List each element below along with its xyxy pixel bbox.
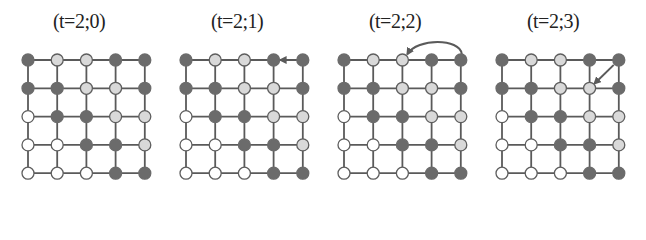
node-empty xyxy=(209,167,221,179)
node-dark xyxy=(80,139,92,151)
node-dark xyxy=(238,111,250,123)
transition-arrow-icon xyxy=(407,42,461,54)
node-dark xyxy=(554,139,566,151)
node-light xyxy=(268,111,280,123)
node-dark xyxy=(396,111,408,123)
node-empty xyxy=(367,167,379,179)
node-dark xyxy=(209,111,221,123)
node-light xyxy=(525,54,537,66)
node-light xyxy=(396,82,408,94)
node-light xyxy=(139,139,151,151)
node-dark xyxy=(496,54,508,66)
node-empty xyxy=(180,139,192,151)
node-dark xyxy=(139,54,151,66)
node-light xyxy=(110,111,122,123)
node-dark xyxy=(297,82,309,94)
node-dark xyxy=(209,82,221,94)
node-empty xyxy=(525,139,537,151)
grid-panel-1 xyxy=(180,54,309,179)
node-empty xyxy=(367,139,379,151)
node-dark xyxy=(238,139,250,151)
node-dark xyxy=(297,167,309,179)
node-empty xyxy=(525,167,537,179)
node-dark xyxy=(51,111,63,123)
node-light xyxy=(139,111,151,123)
node-dark xyxy=(525,111,537,123)
node-light xyxy=(297,111,309,123)
node-dark xyxy=(268,54,280,66)
node-light xyxy=(613,139,625,151)
node-light xyxy=(455,139,467,151)
node-empty xyxy=(338,111,350,123)
node-dark xyxy=(613,82,625,94)
node-light xyxy=(238,82,250,94)
node-light xyxy=(426,82,438,94)
node-light xyxy=(80,54,92,66)
node-dark xyxy=(396,139,408,151)
node-empty xyxy=(51,139,63,151)
node-light xyxy=(584,82,596,94)
node-light xyxy=(613,111,625,123)
node-light xyxy=(110,82,122,94)
node-empty xyxy=(51,167,63,179)
node-empty xyxy=(338,139,350,151)
node-dark xyxy=(51,82,63,94)
node-dark xyxy=(110,167,122,179)
node-dark xyxy=(426,167,438,179)
node-empty xyxy=(22,139,34,151)
node-light xyxy=(554,82,566,94)
node-dark xyxy=(455,167,467,179)
transition-arrow-icon xyxy=(595,65,614,84)
node-light xyxy=(238,54,250,66)
node-empty xyxy=(338,167,350,179)
node-dark xyxy=(367,82,379,94)
node-dark xyxy=(268,139,280,151)
node-dark xyxy=(455,82,467,94)
node-light xyxy=(268,82,280,94)
node-empty xyxy=(180,111,192,123)
node-dark xyxy=(584,167,596,179)
node-dark xyxy=(426,139,438,151)
node-dark xyxy=(613,54,625,66)
node-dark xyxy=(584,139,596,151)
node-dark xyxy=(268,167,280,179)
node-dark xyxy=(367,111,379,123)
node-empty xyxy=(496,139,508,151)
node-light xyxy=(426,111,438,123)
node-dark xyxy=(338,82,350,94)
grid-panel-0 xyxy=(22,54,151,179)
node-light xyxy=(80,82,92,94)
node-dark xyxy=(584,54,596,66)
node-light xyxy=(297,139,309,151)
node-dark xyxy=(180,54,192,66)
grid-panel-3 xyxy=(496,54,625,179)
node-empty xyxy=(22,111,34,123)
node-light xyxy=(367,54,379,66)
node-dark xyxy=(180,82,192,94)
node-dark xyxy=(139,82,151,94)
node-dark xyxy=(525,82,537,94)
node-light xyxy=(209,54,221,66)
node-empty xyxy=(496,167,508,179)
node-light xyxy=(51,54,63,66)
node-empty xyxy=(554,167,566,179)
node-dark xyxy=(22,82,34,94)
node-dark xyxy=(22,54,34,66)
node-light xyxy=(584,111,596,123)
node-dark xyxy=(554,111,566,123)
node-dark xyxy=(455,54,467,66)
node-dark xyxy=(110,139,122,151)
node-dark xyxy=(139,167,151,179)
node-empty xyxy=(80,167,92,179)
node-dark xyxy=(338,54,350,66)
node-empty xyxy=(238,167,250,179)
node-dark xyxy=(496,82,508,94)
node-dark xyxy=(297,54,309,66)
node-dark xyxy=(110,54,122,66)
node-dark xyxy=(426,54,438,66)
node-dark xyxy=(613,167,625,179)
grid-panel-2 xyxy=(338,42,467,179)
node-dark xyxy=(80,111,92,123)
node-light xyxy=(554,54,566,66)
node-empty xyxy=(396,167,408,179)
